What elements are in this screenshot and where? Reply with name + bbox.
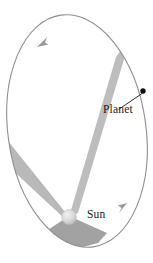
planet-dot <box>140 88 145 93</box>
planet-label: Planet <box>103 104 133 116</box>
direction-arrow-lower-right-icon <box>118 203 127 213</box>
orbit-diagram: Planet Sun <box>0 0 153 263</box>
swept-area-upper-right <box>69 36 131 217</box>
orbit-diagram-canvas <box>0 0 153 263</box>
direction-arrow-upper-left-icon <box>37 37 49 47</box>
sun-body <box>62 210 77 225</box>
sun-label: Sun <box>87 209 106 221</box>
swept-area-left <box>8 141 69 220</box>
orbit-path <box>0 6 153 257</box>
